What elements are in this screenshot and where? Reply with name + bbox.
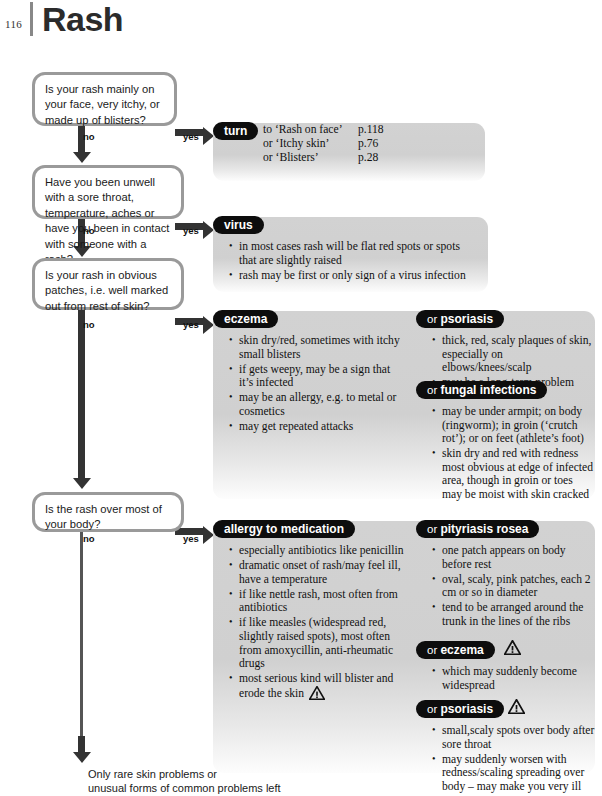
turn-ref-text: or ‘Blisters’: [263, 151, 358, 165]
question-3-text: Is your rash in obvious patches, i.e. we…: [45, 269, 168, 312]
outcome-pill-pityriasis-label: pityriasis rosea: [440, 522, 528, 536]
warning-triangle-icon: [508, 699, 525, 718]
list-item: if like measles (widespread red, slightl…: [228, 616, 408, 670]
list-item: in most cases rash will be flat red spot…: [228, 240, 480, 267]
question-box-4[interactable]: Is the rash over most of your body?: [32, 492, 184, 532]
page-number: 116: [5, 18, 22, 30]
outcome-pill-psoriasis[interactable]: or psoriasis: [416, 310, 504, 328]
arrow-head-q1-to-q2: [73, 152, 91, 163]
turn-ref-page: p.118: [358, 123, 384, 136]
turn-reference-list: to ‘Rash on face’p.118 or ‘Itchy skin’p.…: [263, 123, 483, 165]
turn-ref-row[interactable]: or ‘Itchy skin’p.76: [263, 137, 483, 151]
outcome-pill-psoriasis2-or: or: [427, 703, 440, 715]
outcome-pill-fungal-label: fungal infections: [440, 383, 536, 397]
question-1-no-label: no: [83, 131, 95, 142]
warning-triangle-icon: [504, 640, 521, 659]
list-item: which may suddenly become widespread: [431, 665, 595, 692]
header-divider: [30, 2, 33, 36]
turn-ref-row[interactable]: or ‘Blisters’p.28: [263, 151, 483, 165]
list-item: may be an allergy, e.g. to metal or cosm…: [228, 391, 403, 418]
turn-ref-text: or ‘Itchy skin’: [263, 137, 358, 151]
list-item: skin dry and red with redness most obvio…: [431, 447, 595, 501]
question-2-text: Have you been unwell with a sore throat,…: [45, 176, 169, 265]
question-2-no-label: no: [83, 225, 95, 236]
arrow-shaft-q3-to-q4: [78, 310, 85, 480]
outcome-pill-eczema-label: eczema: [224, 312, 267, 326]
eczema-bullet-list: skin dry/red, sometimes with itchy small…: [228, 334, 403, 435]
outcome-pill-turn-label: turn: [224, 124, 247, 138]
outcome-pill-psoriasis-widespread[interactable]: or psoriasis: [416, 700, 504, 718]
question-box-1[interactable]: Is your rash mainly on your face, very i…: [32, 72, 177, 126]
list-item: may suddenly worsen with redness/scaling…: [431, 753, 595, 794]
question-4-text: Is the rash over most of your body?: [45, 503, 162, 530]
turn-ref-page: p.28: [358, 151, 378, 164]
outcome-pill-eczema2-or: or: [427, 644, 440, 656]
footnote-line-2: unusual forms of common problems left: [88, 781, 281, 796]
outcome-pill-turn[interactable]: turn: [213, 122, 258, 140]
outcome-pill-fungal-infections[interactable]: or fungal infections: [416, 381, 547, 399]
outcome-pill-psoriasis-label: psoriasis: [440, 312, 493, 326]
question-3-no-label: no: [83, 319, 95, 330]
question-2-yes-label: yes: [183, 225, 199, 236]
question-4-yes-label: yes: [183, 533, 199, 544]
list-item: thick, red, scaly plaques of skin, espec…: [431, 334, 595, 375]
list-item: skin dry/red, sometimes with itchy small…: [228, 334, 403, 361]
question-box-3[interactable]: Is your rash in obvious patches, i.e. we…: [32, 258, 184, 310]
question-1-text: Is your rash mainly on your face, very i…: [45, 83, 160, 126]
arrow-head-q4-to-footnote: [73, 752, 91, 763]
allergy-bullet-list: especially antibiotics like penicillin d…: [228, 544, 408, 705]
eczema-widespread-bullet-list: which may suddenly become widespread: [431, 665, 595, 694]
psoriasis-widespread-bullet-list: small,scaly spots over body after sore t…: [431, 724, 595, 795]
outcome-pill-virus[interactable]: virus: [213, 216, 264, 234]
arrow-head-q3-to-q4: [73, 478, 91, 489]
question-3-yes-label: yes: [183, 319, 199, 330]
outcome-pill-allergy-label: allergy to medication: [224, 522, 344, 536]
outcome-pill-pityriasis-rosea[interactable]: or pityriasis rosea: [416, 520, 539, 538]
arrow-shaft-q4-to-footnote: [80, 532, 83, 742]
list-item: one patch appears on body before rest: [431, 544, 595, 571]
question-1-yes-label: yes: [183, 131, 199, 142]
fungal-bullet-list: may be under armpit; on body (ringworm);…: [431, 405, 595, 503]
list-item: rash may be first or only sign of a viru…: [228, 269, 480, 283]
outcome-pill-psoriasis2-label: psoriasis: [440, 702, 493, 716]
list-item: may get repeated attacks: [228, 420, 403, 434]
outcome-pill-allergy-to-medication[interactable]: allergy to medication: [213, 520, 355, 538]
outcome-pill-psoriasis-or: or: [427, 313, 440, 325]
page-title: Rash: [42, 0, 123, 39]
list-item: tend to be arranged around the trunk in …: [431, 601, 595, 628]
question-4-no-label: no: [83, 533, 95, 544]
question-box-2[interactable]: Have you been unwell with a sore throat,…: [32, 165, 184, 219]
turn-ref-row[interactable]: to ‘Rash on face’p.118: [263, 123, 483, 137]
turn-ref-text: to ‘Rash on face’: [263, 123, 358, 137]
outcome-pill-eczema-widespread[interactable]: or eczema: [416, 641, 495, 659]
list-item: dramatic onset of rash/may feel ill, hav…: [228, 559, 408, 586]
turn-ref-page: p.76: [358, 137, 378, 150]
outcome-pill-pityriasis-or: or: [427, 523, 440, 535]
outcome-pill-fungal-or: or: [427, 384, 440, 396]
list-item: may be under armpit; on body (ringworm);…: [431, 405, 595, 446]
outcome-pill-eczema[interactable]: eczema: [213, 310, 278, 328]
outcome-pill-eczema2-label: eczema: [440, 643, 483, 657]
list-item: oval, scaly, pink patches, each 2 cm or …: [431, 573, 595, 600]
list-item: most serious kind will blister and erode…: [228, 672, 408, 703]
list-item: small,scaly spots over body after sore t…: [431, 724, 595, 751]
page-header: 116 Rash: [0, 0, 602, 40]
footnote-line-1: Only rare skin problems or: [88, 767, 217, 782]
list-item: if gets weepy, may be a sign that it’s i…: [228, 363, 403, 390]
list-item: if like nettle rash, most often from ant…: [228, 588, 408, 615]
list-item: especially antibiotics like penicillin: [228, 544, 408, 558]
warning-triangle-icon: [309, 686, 325, 704]
outcome-pill-virus-label: virus: [224, 218, 253, 232]
pityriasis-bullet-list: one patch appears on body before rest ov…: [431, 544, 595, 630]
virus-bullet-list: in most cases rash will be flat red spot…: [228, 240, 480, 284]
